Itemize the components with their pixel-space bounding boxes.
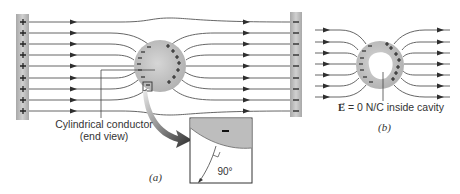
angle-label: 90° xyxy=(210,166,240,178)
field-vector-symbol: →E xyxy=(338,102,345,113)
negative-plate xyxy=(290,12,302,117)
conductor-label-line2: (end view) xyxy=(48,130,160,142)
cylindrical-conductor-a xyxy=(134,40,186,92)
conductor-label-line1: Cylindrical conductor xyxy=(48,118,160,130)
diagram-canvas xyxy=(0,0,460,194)
caption-b: (b) xyxy=(378,121,391,133)
conductor-label: Cylindrical conductor (end view) xyxy=(48,118,160,142)
cavity-field-label: →E = 0 N/C inside cavity xyxy=(338,101,444,114)
caption-a: (a) xyxy=(149,171,162,183)
field-statement: = 0 N/C inside cavity xyxy=(348,101,444,113)
electric-field-figure: Cylindrical conductor (end view) 90° (a)… xyxy=(0,0,460,194)
plus-signs xyxy=(20,19,26,114)
